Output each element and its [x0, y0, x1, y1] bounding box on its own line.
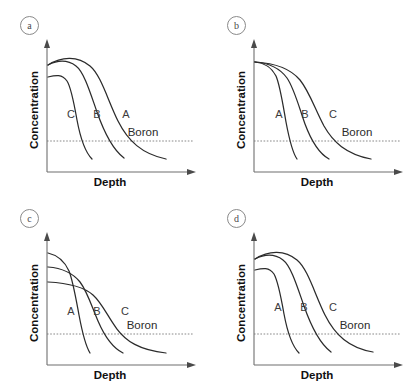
x-axis-arrow: [394, 169, 403, 175]
x-axis-title: Depth: [94, 369, 127, 381]
curve-label-first: A: [67, 305, 75, 317]
curve-c: [255, 62, 371, 159]
y-axis-arrow: [44, 39, 50, 48]
curve-label-third: C: [121, 305, 129, 317]
boron-label: Boron: [128, 126, 159, 138]
x-axis-title: Depth: [301, 176, 334, 188]
panel-tag-d: d: [227, 209, 246, 228]
panel-d: d A B C Boron Depth Concentration: [207, 193, 414, 386]
panel-a: a C B A Boron Depth Concentration: [0, 0, 207, 193]
y-axis-title: Concentration: [235, 264, 247, 342]
curve-label-third: C: [329, 108, 337, 120]
curve-label-third: C: [329, 301, 337, 313]
curve-label-second: B: [93, 305, 100, 317]
panel-b: b A B C Boron Depth Concentration: [207, 0, 414, 193]
y-axis-title: Concentration: [235, 71, 247, 149]
x-axis-title: Depth: [94, 176, 127, 188]
panel-c: c A B C Boron Depth Concentration: [0, 193, 207, 386]
y-axis-title: Concentration: [28, 264, 40, 342]
curve-label-first: A: [274, 301, 282, 313]
curve-label-third: A: [122, 108, 130, 120]
x-axis-arrow: [394, 362, 403, 368]
curve-c: [255, 252, 373, 352]
boron-label: Boron: [342, 126, 373, 138]
curve-b: [255, 62, 329, 159]
x-axis-title: Depth: [301, 369, 334, 381]
y-axis-arrow: [251, 39, 257, 48]
curve-b: [48, 267, 123, 353]
y-axis-arrow: [251, 232, 257, 241]
boron-label: Boron: [340, 319, 371, 331]
y-axis-title: Concentration: [28, 71, 40, 149]
figure-container: a C B A Boron Depth Concentration b: [0, 0, 415, 386]
panel-tag-a: a: [20, 16, 39, 35]
curve-label-first: C: [67, 108, 75, 120]
curve-a: [48, 58, 166, 159]
curve-c: [48, 282, 166, 353]
boron-label: Boron: [127, 319, 158, 331]
panel-tag-c: c: [20, 209, 39, 228]
y-axis-arrow: [44, 232, 50, 241]
curve-label-second: B: [93, 108, 100, 120]
curve-label-second: B: [301, 108, 308, 120]
x-axis-arrow: [187, 362, 196, 368]
curve-label-second: B: [300, 301, 307, 313]
x-axis-arrow: [187, 169, 196, 175]
curve-label-first: A: [275, 108, 283, 120]
panel-tag-b: b: [227, 16, 246, 35]
